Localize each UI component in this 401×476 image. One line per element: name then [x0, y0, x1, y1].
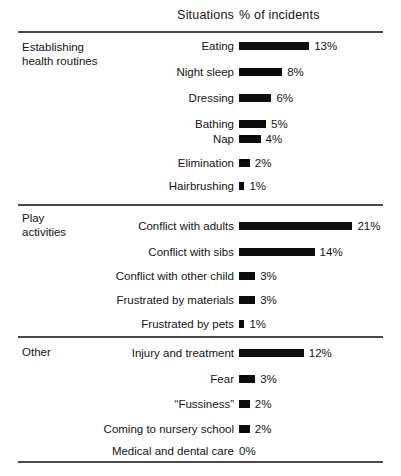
chart-row: Fear3% [0, 371, 401, 387]
bar-group: 12% [239, 345, 332, 361]
row-label: Frustrated by materials [86, 292, 234, 308]
chart-row: Frustrated by materials3% [0, 292, 401, 308]
row-label: Conflict with sibs [86, 244, 234, 260]
row-label: Frustrated by pets [86, 316, 234, 332]
row-label: Nap [86, 131, 234, 147]
bar-value-label: 3% [260, 292, 277, 308]
bar-chart: Situations % of incidents Establishing h… [0, 0, 401, 476]
chart-row: Conflict with adults21% [0, 218, 401, 234]
bar-group: 21% [239, 218, 380, 234]
bar-value-label: 0% [239, 443, 256, 459]
row-label: Conflict with other child [86, 268, 234, 284]
bar [239, 320, 244, 328]
chart-row: Elimination2% [0, 155, 401, 171]
bar [239, 222, 352, 230]
bar-group: 3% [239, 268, 277, 284]
bar-group: 4% [239, 131, 282, 147]
bar-value-label: 13% [314, 38, 337, 54]
bar-value-label: 2% [255, 421, 272, 437]
bar-group: 6% [239, 90, 293, 106]
row-label: Night sleep [86, 64, 234, 80]
section-divider-3 [18, 461, 383, 463]
bar-group: 2% [239, 396, 271, 412]
bar [239, 400, 250, 408]
bar-value-label: 8% [287, 64, 304, 80]
section-divider-2 [18, 336, 383, 338]
bar-value-label: 2% [255, 396, 272, 412]
bar-group: 3% [239, 371, 277, 387]
chart-row: Dressing6% [0, 90, 401, 106]
bar-group: 14% [239, 244, 343, 260]
bar-group: 1% [239, 178, 266, 194]
chart-row: Medical and dental care0% [0, 443, 401, 459]
column-header-situations: Situations [118, 8, 234, 22]
row-label: Medical and dental care [86, 443, 234, 459]
row-label: Coming to nursery school [86, 421, 234, 437]
bar-value-label: 12% [309, 345, 332, 361]
chart-row: Conflict with other child3% [0, 268, 401, 284]
bar-group: 3% [239, 292, 277, 308]
bar [239, 248, 315, 256]
bar-value-label: 1% [249, 316, 266, 332]
row-label: Conflict with adults [86, 218, 234, 234]
chart-row: Injury and treatment12% [0, 345, 401, 361]
chart-row: “Fussiness”2% [0, 396, 401, 412]
chart-row: Eating13% [0, 38, 401, 54]
bar [239, 159, 250, 167]
bar-group: 2% [239, 155, 271, 171]
row-label: Injury and treatment [86, 345, 234, 361]
bar-group: 2% [239, 421, 271, 437]
column-header-percent-of-incidents: % of incidents [239, 8, 320, 22]
bar-group: 1% [239, 316, 266, 332]
bar-group: 5% [239, 116, 288, 132]
section-divider-1 [18, 204, 383, 206]
bar [239, 349, 304, 357]
bar-group: 13% [239, 38, 337, 54]
chart-row: Coming to nursery school2% [0, 421, 401, 437]
bar [239, 425, 250, 433]
chart-header: Situations % of incidents [0, 8, 401, 28]
bar-value-label: 4% [266, 131, 283, 147]
row-label: “Fussiness” [86, 396, 234, 412]
bar-value-label: 5% [271, 116, 288, 132]
bar [239, 94, 271, 102]
bar-value-label: 21% [357, 218, 380, 234]
bar-value-label: 6% [276, 90, 293, 106]
bar-group: 0% [239, 443, 256, 459]
bar-value-label: 1% [249, 178, 266, 194]
bar-value-label: 3% [260, 268, 277, 284]
row-label: Eating [86, 38, 234, 54]
chart-row: Conflict with sibs14% [0, 244, 401, 260]
bar-group: 8% [239, 64, 304, 80]
bar-value-label: 3% [260, 371, 277, 387]
bar-value-label: 2% [255, 155, 272, 171]
bar [239, 135, 261, 143]
bar [239, 42, 309, 50]
chart-row: Frustrated by pets1% [0, 316, 401, 332]
section-divider-0 [18, 31, 383, 33]
chart-row: Bathing5% [0, 116, 401, 132]
bar [239, 296, 255, 304]
bar [239, 182, 244, 190]
row-label: Elimination [86, 155, 234, 171]
bar [239, 68, 282, 76]
chart-row: Night sleep8% [0, 64, 401, 80]
chart-row: Hairbrushing1% [0, 178, 401, 194]
chart-row: Nap4% [0, 131, 401, 147]
bar [239, 272, 255, 280]
bar [239, 120, 266, 128]
bar-value-label: 14% [320, 244, 343, 260]
row-label: Fear [86, 371, 234, 387]
row-label: Hairbrushing [86, 178, 234, 194]
bar [239, 375, 255, 383]
row-label: Bathing [86, 116, 234, 132]
row-label: Dressing [86, 90, 234, 106]
